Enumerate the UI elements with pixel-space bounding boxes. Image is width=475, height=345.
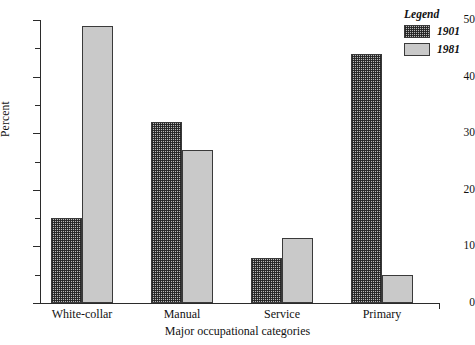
y-axis-tick-label: 30 (443, 127, 475, 139)
legend-label-1981: 1981 (437, 43, 460, 56)
legend-swatch-1981 (404, 43, 430, 56)
bar-service-1901 (251, 258, 282, 303)
legend-item-1981: 1981 (404, 43, 474, 56)
y-axis-tick-major (33, 303, 40, 304)
y-axis-tick-major (33, 77, 40, 78)
x-axis-line (40, 303, 440, 304)
y-axis-tick-label: 10 (443, 240, 475, 252)
bar-manual-1981 (182, 150, 213, 303)
plot-area (40, 20, 440, 303)
legend-label-1901: 1901 (437, 25, 460, 38)
legend-item-1901: 1901 (404, 25, 474, 38)
bar-primary-1901 (351, 54, 382, 303)
legend: Legend 1901 1981 (404, 8, 474, 61)
x-axis-title: Major occupational categories (0, 325, 475, 338)
y-axis-tick-label: 20 (443, 184, 475, 196)
y-axis-tick-label: 40 (443, 71, 475, 83)
bar-primary-1981 (382, 275, 413, 303)
bar-white-collar-1981 (82, 26, 113, 303)
y-axis-tick-major (33, 190, 40, 191)
y-axis-title: Percent (0, 101, 11, 137)
y-axis-tick-major (33, 20, 40, 21)
bar-service-1981 (282, 238, 313, 303)
y-axis-tick-major (33, 246, 40, 247)
y-axis-tick-major (33, 133, 40, 134)
y-axis-tick-label: 0 (443, 297, 475, 309)
bar-manual-1901 (151, 122, 182, 303)
bar-chart: Percent 01020304050 White-collarManualSe… (0, 0, 475, 345)
x-axis-label-primary: Primary (322, 308, 442, 321)
legend-title: Legend (404, 8, 474, 21)
legend-swatch-1901 (404, 25, 430, 38)
bar-white-collar-1901 (51, 218, 82, 303)
